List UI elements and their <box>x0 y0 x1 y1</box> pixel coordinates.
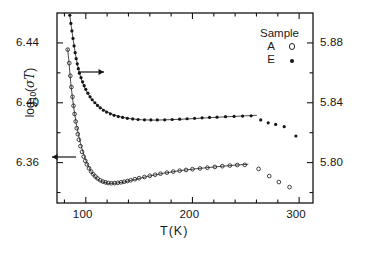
point-filled <box>274 123 277 126</box>
point-filled <box>76 62 79 65</box>
point-filled <box>126 117 129 120</box>
point-filled <box>93 101 96 104</box>
point-filled <box>193 117 196 120</box>
point-filled <box>267 121 270 124</box>
point-filled <box>71 37 74 40</box>
point-filled <box>68 14 71 17</box>
point-filled <box>171 118 174 121</box>
point-filled <box>81 80 84 83</box>
point-filled <box>77 67 80 70</box>
point-filled <box>86 92 89 95</box>
point-filled <box>250 114 253 117</box>
point-filled <box>136 118 139 121</box>
y-tick-label-right-5.88: 5.88 <box>320 36 343 48</box>
point-filled <box>109 112 112 115</box>
x-tick-label-200: 200 <box>179 208 199 220</box>
point-filled <box>84 88 87 91</box>
point-filled <box>163 118 166 121</box>
point-open <box>267 174 271 178</box>
point-filled <box>208 116 211 119</box>
point-filled <box>70 29 73 32</box>
y-tick-label-left-6.40: 6.40 <box>16 96 39 108</box>
y-tick-label-right-5.84: 5.84 <box>320 96 343 108</box>
data-points <box>66 14 298 189</box>
point-filled <box>224 115 227 118</box>
point-filled <box>69 22 72 25</box>
point-open <box>80 150 84 154</box>
arrow-right-head <box>99 69 105 75</box>
x-tick-label-100: 100 <box>73 208 93 220</box>
point-filled <box>156 118 159 121</box>
point-filled <box>79 76 82 79</box>
point-filled <box>83 84 86 87</box>
fit-curves <box>68 15 257 183</box>
point-filled <box>149 118 152 121</box>
y-tick-label-left-6.44: 6.44 <box>16 36 39 48</box>
point-filled <box>294 134 297 137</box>
point-filled <box>232 115 235 118</box>
y-tick-label-left-6.36: 6.36 <box>16 156 39 168</box>
figure-container: log10(σT) T(K) Sample A E 1002003006.366… <box>0 0 375 254</box>
point-filled <box>241 114 244 117</box>
point-filled <box>186 117 189 120</box>
point-filled <box>105 110 108 113</box>
point-filled <box>96 104 99 107</box>
y-tick-label-right-5.80: 5.80 <box>320 156 343 168</box>
axis-arrows <box>52 69 104 160</box>
point-filled <box>121 116 124 119</box>
fit-A <box>68 49 248 183</box>
point-filled <box>99 106 102 109</box>
point-open <box>288 185 292 189</box>
point-filled <box>200 116 203 119</box>
point-open <box>277 180 281 184</box>
point-filled <box>91 98 94 101</box>
point-filled <box>215 116 218 119</box>
point-filled <box>74 51 77 54</box>
point-filled <box>102 109 105 112</box>
point-filled <box>178 118 181 121</box>
point-filled <box>143 118 146 121</box>
point-filled <box>72 44 75 47</box>
point-filled <box>117 115 120 118</box>
point-filled <box>259 118 262 121</box>
x-tick-label-300: 300 <box>286 208 306 220</box>
point-filled <box>131 117 134 120</box>
point-filled <box>88 95 91 98</box>
point-filled <box>112 114 115 117</box>
point-open <box>257 167 261 171</box>
point-filled <box>75 57 78 60</box>
point-filled <box>283 125 286 128</box>
arrow-left-head <box>52 154 58 160</box>
